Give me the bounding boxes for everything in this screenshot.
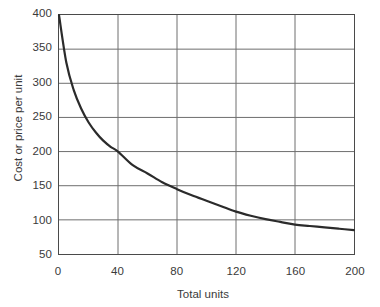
x-axis-tick-labels: 04080120160200 — [0, 266, 380, 282]
x-axis-title: Total units — [0, 288, 380, 300]
x-axis-tick-label: 40 — [97, 266, 137, 278]
x-axis-tick-label: 80 — [157, 266, 197, 278]
x-axis-tick-label: 120 — [216, 266, 256, 278]
y-axis-tick-label: 400 — [8, 8, 52, 20]
y-axis-tick-label: 350 — [8, 42, 52, 54]
plot-area — [58, 14, 355, 255]
chart-container: 50100150200250300350400 Cost or price pe… — [0, 0, 380, 307]
x-axis-tick-label: 160 — [276, 266, 316, 278]
y-axis-tick-label: 50 — [8, 249, 52, 261]
x-axis-tick-label: 200 — [335, 266, 375, 278]
curve-path — [59, 15, 354, 230]
y-axis-tick-labels: 50100150200250300350400 — [0, 0, 52, 307]
y-axis-title: Cost or price per unit — [12, 58, 24, 198]
x-axis-tick-label: 0 — [38, 266, 78, 278]
y-axis-tick-label: 100 — [8, 215, 52, 227]
series-curve-experience-curve — [59, 15, 354, 254]
